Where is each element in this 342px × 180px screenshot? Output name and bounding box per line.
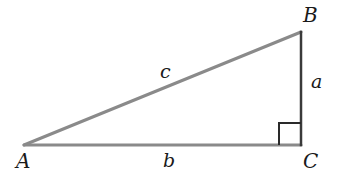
- right-angle-marker: [279, 123, 301, 145]
- vertex-label-c: C: [303, 151, 318, 171]
- side-label-b: b: [163, 151, 175, 170]
- side-label-c: c: [160, 62, 171, 81]
- vertex-label-a: A: [16, 151, 30, 171]
- side-c-hypotenuse: [24, 32, 301, 145]
- side-label-a: a: [311, 72, 322, 91]
- vertex-label-b: B: [303, 5, 318, 25]
